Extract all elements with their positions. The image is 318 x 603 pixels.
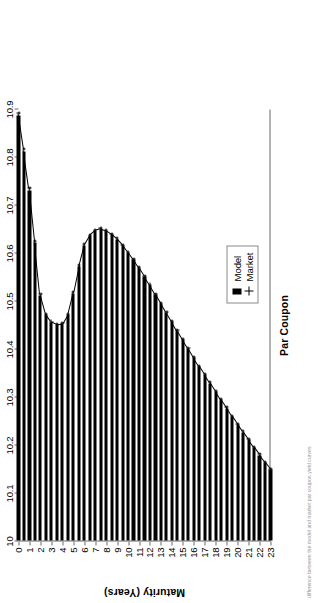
category-axis-tick	[149, 541, 150, 545]
bar-model	[236, 424, 239, 540]
market-plus-marker	[235, 422, 238, 425]
bar-model	[214, 391, 217, 540]
bar-model	[60, 323, 63, 540]
plot-area	[18, 109, 270, 541]
market-plus-marker	[230, 414, 233, 417]
value-axis-tick	[14, 108, 18, 109]
category-axis-tick-label: 0	[13, 547, 24, 552]
market-plus-marker	[38, 292, 41, 295]
bar-model	[82, 245, 85, 540]
market-plus-marker	[241, 429, 244, 432]
category-axis-tick-label: 17	[199, 547, 210, 557]
category-axis-tick	[128, 541, 129, 545]
market-plus-marker	[82, 242, 85, 245]
caption-bleed: difference between the model and market …	[303, 0, 317, 603]
category-axis-tick-label: 1	[23, 547, 34, 552]
market-plus-marker	[268, 467, 271, 470]
market-plus-marker	[197, 364, 200, 367]
category-axis-tick	[18, 541, 19, 545]
value-axis-tick-label: 10.1	[3, 484, 14, 502]
value-axis-tick-label: 10.5	[3, 292, 14, 310]
category-axis-tick-label: 16	[188, 547, 199, 557]
bar-model	[77, 266, 80, 540]
market-plus-marker	[224, 405, 227, 408]
market-plus-marker	[55, 322, 58, 325]
category-axis-tick-label: 19	[221, 547, 232, 557]
category-axis-tick-label: 23	[265, 547, 276, 557]
bar-model	[121, 245, 124, 540]
category-axis-tick-label: 18	[210, 547, 221, 557]
chart-canvas: 1010.110.210.310.410.510.610.710.810.9 0…	[0, 0, 318, 603]
market-plus-marker	[192, 355, 195, 358]
category-axis-tick-label: 6	[78, 547, 89, 552]
bar-model	[197, 366, 200, 540]
bar-model	[71, 293, 74, 540]
category-axis-tick-label: 20	[232, 547, 243, 557]
market-plus-marker	[246, 437, 249, 440]
bar-model	[203, 374, 206, 540]
market-plus-marker	[115, 236, 118, 239]
market-plus-marker	[22, 147, 25, 150]
category-axis-tick-label: 10	[122, 547, 133, 557]
bar-model	[104, 230, 107, 540]
value-axis-tick-label: 10.8	[3, 148, 14, 166]
bar-model	[131, 259, 134, 540]
category-axis-tick	[182, 541, 183, 545]
category-axis-title: Maturity (Years)	[18, 586, 270, 597]
category-axis-tick	[40, 541, 41, 545]
category-axis-tick	[95, 541, 96, 545]
market-plus-marker	[27, 186, 30, 189]
bar-model	[219, 399, 222, 540]
bar-model	[126, 252, 129, 540]
bar-model	[175, 330, 178, 540]
value-axis-title: Par Coupon	[278, 109, 289, 541]
bar-model	[55, 324, 58, 540]
bar-model	[241, 432, 244, 540]
category-axis-tick-label: 2	[34, 547, 45, 552]
bar-model	[159, 303, 162, 540]
market-plus-marker	[263, 460, 266, 463]
bar-model	[170, 321, 173, 540]
market-plus-marker	[203, 372, 206, 375]
category-axis-tick-label: 13	[155, 547, 166, 557]
market-plus-marker	[153, 292, 156, 295]
market-plus-marker	[44, 312, 47, 315]
legend: Model Market	[226, 245, 258, 303]
bar-model	[263, 462, 266, 540]
market-plus-marker	[131, 257, 134, 260]
category-axis-tick	[193, 541, 194, 545]
bar-series-group	[18, 109, 269, 540]
figure-page: 1010.110.210.310.410.510.610.710.810.9 0…	[0, 0, 318, 603]
bar-model	[88, 235, 91, 540]
category-axis-tick	[171, 541, 172, 545]
market-plus-marker	[181, 337, 184, 340]
category-axis-tick	[259, 541, 260, 545]
category-axis-tick	[84, 541, 85, 545]
market-plus-marker	[60, 321, 63, 324]
market-plus-marker	[159, 301, 162, 304]
bar-model	[44, 314, 47, 540]
value-axis-tick-label: 10.3	[3, 388, 14, 406]
category-axis-tick	[73, 541, 74, 545]
value-axis-tick-label: 10	[3, 536, 14, 546]
market-plus-marker	[186, 346, 189, 349]
bar-model	[268, 469, 271, 540]
category-axis-tick	[51, 541, 52, 545]
category-axis-tick	[117, 541, 118, 545]
bar-model	[115, 239, 118, 540]
value-axis-tick-label: 10.4	[3, 340, 14, 358]
bar-model	[38, 295, 41, 540]
legend-item-model: Model	[230, 252, 242, 298]
value-axis-tick-label: 10.6	[3, 244, 14, 262]
bar-model	[192, 357, 195, 540]
bar-model	[153, 294, 156, 540]
bar-model	[148, 285, 151, 540]
category-axis-tick-label: 14	[166, 547, 177, 557]
category-axis-tick	[237, 541, 238, 545]
category-axis-tick-label: 21	[243, 547, 254, 557]
bar-model	[93, 230, 96, 540]
bar-model	[164, 312, 167, 540]
value-axis-tick-label: 10.9	[3, 100, 14, 118]
category-axis-tick	[139, 541, 140, 545]
category-axis-tick	[248, 541, 249, 545]
